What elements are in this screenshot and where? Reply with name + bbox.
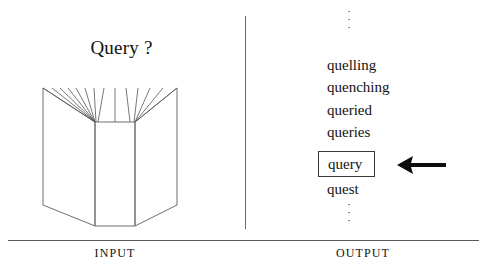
query-title: Query ? [0,37,243,59]
list-item[interactable]: quest [327,180,359,198]
list-item[interactable]: queries [327,123,370,141]
ellipsis-dot: · [345,24,353,32]
list-item-selected[interactable]: query [318,151,375,177]
ellipsis-bottom-icon: · · · [345,201,353,225]
list-item[interactable]: quenching [327,78,389,96]
diagram-canvas: Query ? [0,0,487,271]
output-caption: OUTPUT [307,246,419,261]
ellipsis-top-icon: · · · [345,8,353,32]
list-item[interactable]: quelling [327,56,376,74]
open-book-icon [30,80,200,235]
input-caption: INPUT [60,246,170,261]
output-word-list: · · · quelling quenching queried queries… [327,0,477,232]
arrow-left-icon [396,152,448,178]
list-item[interactable]: queried [327,101,372,119]
vertical-divider [245,16,246,229]
ellipsis-dot: · [345,217,353,225]
baseline-divider [8,240,479,241]
